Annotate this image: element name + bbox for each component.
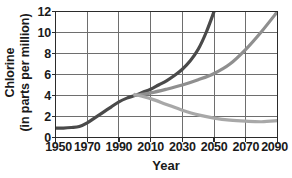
chart-container: Chlorine (in parts per million) 02468101…: [0, 0, 292, 178]
series-line-historical-and-steep-rise: [56, 12, 215, 129]
grid-lines: [56, 12, 278, 138]
plot-area: [0, 0, 292, 178]
series-line-decline-and-plateau: [135, 94, 278, 121]
data-series-layer: [56, 12, 278, 129]
